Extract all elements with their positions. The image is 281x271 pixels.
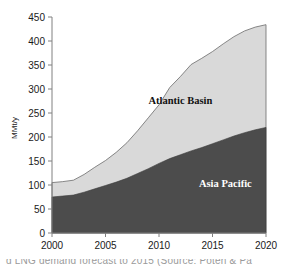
y-tick-label: 350 (28, 60, 45, 71)
y-tick-label: 250 (28, 108, 45, 119)
y-tick-label: 100 (28, 180, 45, 191)
x-tick-label: 2010 (148, 240, 171, 251)
stacked-area-chart: 050100150200250300350400450 200020052010… (0, 0, 281, 271)
y-tick-label: 200 (28, 132, 45, 143)
x-axis-ticks: 20002005201020152020 (41, 233, 278, 251)
chart-figure: 050100150200250300350400450 200020052010… (0, 0, 281, 271)
x-tick-label: 2005 (94, 240, 117, 251)
y-axis-ticks: 050100150200250300350400450 (28, 12, 52, 239)
y-tick-label: 450 (28, 12, 45, 23)
caption-strip: d LNG demand forecast to 2015 (Source: P… (0, 259, 281, 271)
series-annotation-asia-pacific: Asia Pacific (199, 178, 252, 189)
x-tick-label: 2015 (201, 240, 224, 251)
series-annotation-atlantic-basin: Atlantic Basin (148, 95, 212, 106)
figure-caption: d LNG demand forecast to 2015 (Source: P… (6, 259, 252, 266)
y-tick-label: 0 (39, 228, 45, 239)
y-tick-label: 300 (28, 84, 45, 95)
y-axis-title: MMt/y (10, 117, 19, 139)
x-tick-label: 2000 (41, 240, 64, 251)
y-tick-label: 150 (28, 156, 45, 167)
x-tick-label: 2020 (255, 240, 278, 251)
y-tick-label: 50 (34, 204, 46, 215)
y-tick-label: 400 (28, 36, 45, 47)
